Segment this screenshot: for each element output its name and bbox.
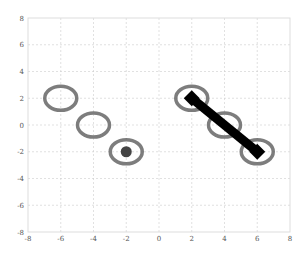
x-tick-label: -4 bbox=[90, 235, 97, 243]
x-tick-label: -2 bbox=[123, 235, 130, 243]
y-tick-label: 2 bbox=[20, 95, 24, 103]
y-tick-label: 0 bbox=[20, 122, 24, 130]
y-tick-label: -8 bbox=[17, 229, 24, 237]
y-tick-label: -6 bbox=[17, 202, 24, 210]
x-tick-label: -6 bbox=[57, 235, 64, 243]
x-tick-label: 2 bbox=[190, 235, 194, 243]
y-tick-label: -2 bbox=[17, 148, 24, 156]
grid-lines bbox=[28, 18, 290, 232]
x-axis-ticks: -8-6-4-202468 bbox=[25, 235, 293, 243]
data-marks bbox=[45, 86, 274, 164]
dot-marker bbox=[121, 146, 132, 157]
y-tick-label: 4 bbox=[20, 68, 25, 76]
y-tick-label: -4 bbox=[17, 175, 24, 183]
x-tick-label: 4 bbox=[222, 235, 227, 243]
x-tick-label: 6 bbox=[255, 235, 260, 243]
y-tick-label: 8 bbox=[20, 15, 24, 23]
x-tick-label: 8 bbox=[288, 235, 292, 243]
scatter-chart: -8-6-4-202468 86420-2-4-6-8 bbox=[0, 0, 308, 255]
y-axis-ticks: 86420-2-4-6-8 bbox=[17, 15, 24, 237]
x-tick-label: -8 bbox=[25, 235, 32, 243]
y-tick-label: 6 bbox=[20, 41, 25, 49]
x-tick-label: 0 bbox=[157, 235, 161, 243]
